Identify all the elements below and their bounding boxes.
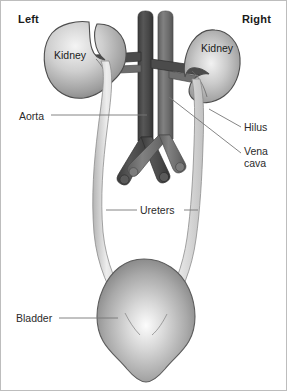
kidney-left-label: Kidney: [54, 49, 86, 61]
leader-vena-cava: [169, 97, 241, 153]
anatomy-illustration: [1, 1, 287, 391]
kidney-right: [184, 30, 240, 103]
orientation-label-left: Left: [18, 13, 39, 25]
iliac-artery-left-cap: [120, 175, 129, 184]
iliac-vein-right-cap: [176, 163, 185, 172]
iliac-artery-right-cap: [159, 172, 168, 181]
iliac-vein-left-cap: [129, 168, 138, 177]
callout-label-vena-cava: Vena cava: [244, 145, 268, 169]
callout-label-vena-cava-line2: cava: [244, 157, 268, 169]
aorta-trunk: [138, 11, 153, 141]
callout-label-hilus: Hilus: [244, 121, 267, 133]
leader-hilus: [209, 109, 241, 127]
callout-label-bladder: Bladder: [16, 312, 52, 324]
urinary-system-diagram: Left Right Kidney Kidney Aorta Hilus Ven…: [0, 0, 287, 391]
kidney-right-label: Kidney: [201, 42, 233, 54]
bladder-group: [97, 259, 195, 382]
orientation-label-right: Right: [242, 13, 271, 25]
callout-label-aorta: Aorta: [19, 110, 44, 122]
bladder: [97, 259, 195, 382]
callout-label-vena-cava-line1: Vena: [244, 145, 268, 157]
callout-label-ureters: Ureters: [140, 204, 174, 216]
